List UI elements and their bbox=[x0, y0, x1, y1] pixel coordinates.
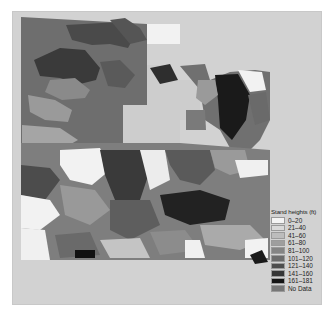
legend-item: No Data bbox=[271, 285, 323, 293]
legend-item: 41–60 bbox=[271, 232, 323, 240]
legend-item: 121–140 bbox=[271, 262, 323, 270]
legend-swatch bbox=[271, 225, 285, 232]
legend-swatch bbox=[271, 247, 285, 254]
map-polygons bbox=[21, 17, 270, 264]
legend-swatch bbox=[271, 285, 285, 292]
legend-swatch bbox=[271, 270, 285, 277]
legend-item: 61–80 bbox=[271, 239, 323, 247]
legend-title: Stand heights (ft) bbox=[271, 208, 323, 216]
legend-item: 21–40 bbox=[271, 224, 323, 232]
legend-swatch bbox=[271, 217, 285, 224]
legend-swatch bbox=[271, 232, 285, 239]
legend-swatch bbox=[271, 255, 285, 262]
legend-item: 141–160 bbox=[271, 270, 323, 278]
legend-swatch bbox=[271, 263, 285, 270]
legend-item: 81–100 bbox=[271, 247, 323, 255]
legend-swatch bbox=[271, 240, 285, 247]
legend-item: 161–181 bbox=[271, 277, 323, 285]
legend-item: 101–120 bbox=[271, 255, 323, 263]
legend-item: 0–20 bbox=[271, 217, 323, 225]
map-legend: Stand heights (ft) 0–20 21–40 41–60 61–8… bbox=[271, 208, 323, 293]
legend-swatch bbox=[271, 278, 285, 285]
